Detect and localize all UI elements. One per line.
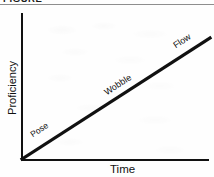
y-axis-title: Proficiency [6,52,18,124]
line-chart: Proficiency Time Pose Wobble Flow [0,0,214,177]
figure-page: FIGURE Proficiency Time Pose Wobble Flow [0,0,214,177]
proficiency-trend-line [22,38,210,159]
x-axis-title: Time [110,163,135,175]
